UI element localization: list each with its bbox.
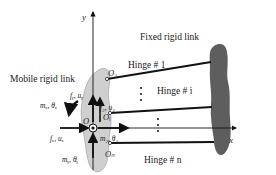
ellipsis-dots-lower	[157, 118, 159, 132]
moment-x-label: mₓ, θₓ	[40, 101, 57, 110]
x-axis-label: x	[228, 135, 233, 145]
point-on-label: Oₙ	[105, 149, 115, 159]
point-o1-label: O₁	[108, 68, 117, 78]
moment-z-label: m₂, θ₂	[100, 134, 118, 143]
hinge-1-label: Hinge # 1	[128, 60, 166, 70]
hinge-i-line	[110, 107, 212, 113]
ellipsis-dots-upper	[140, 87, 142, 101]
fixed-link-label: Fixed rigid link	[140, 32, 199, 42]
force-z-label: f₂, u₂	[100, 103, 115, 112]
moment-y-label: mᵧ, θᵧ	[62, 155, 79, 164]
mobile-link-label: Mobile rigid link	[10, 74, 75, 84]
origin-label: O	[83, 116, 89, 126]
moment-x-curved-arrow	[69, 101, 78, 115]
force-x-label: fₓ, uₓ	[50, 134, 64, 143]
fixed-rigid-link	[210, 44, 231, 155]
point-oi-label: Oᵢ	[103, 112, 110, 122]
hinge-i-label: Hinge # i	[157, 86, 193, 96]
hinge-n-line	[110, 142, 214, 143]
force-y-label: fᵧ, uᵧ	[70, 91, 83, 100]
compliant-mechanism-diagram: Fixed rigid link Mobile rigid link Hinge…	[0, 0, 276, 175]
origin-dot	[91, 126, 94, 129]
hinge-n-label: Hinge # n	[144, 155, 182, 165]
y-axis-label: y	[81, 12, 86, 22]
